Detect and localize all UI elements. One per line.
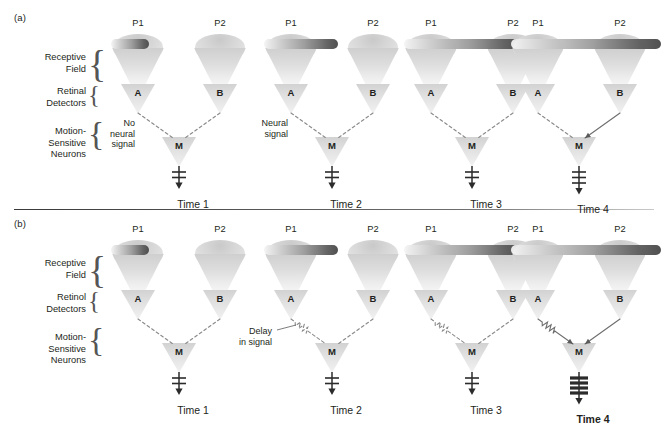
panel-a: (a) Receptive Field Retinal Detectors Mo… bbox=[0, 0, 668, 206]
left-connection bbox=[431, 113, 466, 138]
moving-bar-stimulus bbox=[404, 245, 522, 255]
column-graphics bbox=[266, 206, 426, 412]
axon-output bbox=[465, 372, 479, 395]
axon-output bbox=[325, 166, 339, 189]
time-column: P1P2ABMTime 1 bbox=[113, 206, 273, 412]
annotation-text: Delay in signal bbox=[220, 326, 272, 347]
time-label: Time 1 bbox=[129, 404, 257, 416]
left-connection bbox=[291, 319, 326, 344]
row-label-neurons-b: Motion- Sensitive Neurons bbox=[2, 332, 86, 367]
moving-bar-stimulus bbox=[511, 39, 661, 49]
moving-bar-stimulus bbox=[404, 39, 522, 49]
left-connection bbox=[138, 319, 173, 344]
time-column: P1P2ABMTime 2Neural signal bbox=[266, 0, 426, 206]
axon-output bbox=[570, 372, 588, 405]
column-graphics bbox=[513, 0, 668, 206]
row-label-detectors-a: Retinal Detectors bbox=[2, 86, 86, 109]
time-label: Time 4 bbox=[529, 413, 657, 425]
row-label-neurons-a: Motion- Sensitive Neurons bbox=[2, 126, 86, 161]
column-graphics bbox=[113, 206, 273, 412]
row-label-receptive-field-b: Receptive Field bbox=[2, 258, 86, 281]
axon-output bbox=[325, 372, 339, 395]
right-connection bbox=[185, 319, 220, 344]
right-connection bbox=[585, 319, 620, 344]
column-graphics bbox=[513, 206, 668, 412]
moving-bar-stimulus bbox=[264, 245, 338, 255]
right-connection bbox=[478, 113, 513, 138]
right-connection bbox=[478, 319, 513, 344]
panel-a-tag: (a) bbox=[14, 12, 26, 23]
brace-neurons-b: { bbox=[88, 323, 104, 357]
column-graphics bbox=[113, 0, 273, 206]
moving-bar-stimulus bbox=[511, 245, 661, 255]
right-connection bbox=[338, 113, 373, 138]
time-column: P1P2ABMTime 4 bbox=[513, 206, 668, 412]
right-connection bbox=[185, 113, 220, 138]
annotation-text: No neural signal bbox=[83, 118, 135, 150]
right-connection bbox=[585, 113, 620, 138]
moving-bar-stimulus bbox=[111, 39, 149, 49]
time-column: P1P2ABMTime 4 bbox=[513, 0, 668, 206]
left-connection bbox=[431, 319, 466, 344]
time-column: P1P2ABMTime 2Delay in signal bbox=[266, 206, 426, 412]
annotation-text: Neural signal bbox=[236, 118, 288, 139]
axon-output bbox=[172, 166, 186, 189]
row-label-receptive-field-a: Receptive Field bbox=[2, 52, 86, 75]
time-label: Time 2 bbox=[282, 404, 410, 416]
column-graphics bbox=[266, 0, 426, 206]
moving-bar-stimulus bbox=[264, 39, 338, 49]
right-connection bbox=[338, 319, 373, 344]
left-connection bbox=[291, 113, 326, 138]
left-connection bbox=[538, 319, 573, 344]
brace-detectors-a: { bbox=[88, 82, 100, 107]
panel-b-tag: (b) bbox=[14, 218, 26, 229]
left-connection bbox=[538, 113, 573, 138]
brace-detectors-b: { bbox=[88, 288, 100, 313]
moving-bar-stimulus bbox=[111, 245, 149, 255]
row-label-detectors-b: Retinol Detectors bbox=[2, 292, 86, 315]
axon-output bbox=[572, 166, 586, 195]
brace-receptive-field-b: { bbox=[88, 251, 106, 289]
panel-b: (b) Receptive Field Retinol Detectors Mo… bbox=[0, 206, 668, 412]
axon-output bbox=[465, 166, 479, 189]
brace-receptive-field-a: { bbox=[88, 45, 106, 83]
annotation-leader-line bbox=[277, 325, 296, 330]
axon-output bbox=[172, 372, 186, 395]
left-connection bbox=[138, 113, 173, 138]
time-column: P1P2ABMTime 1No neural signal bbox=[113, 0, 273, 206]
